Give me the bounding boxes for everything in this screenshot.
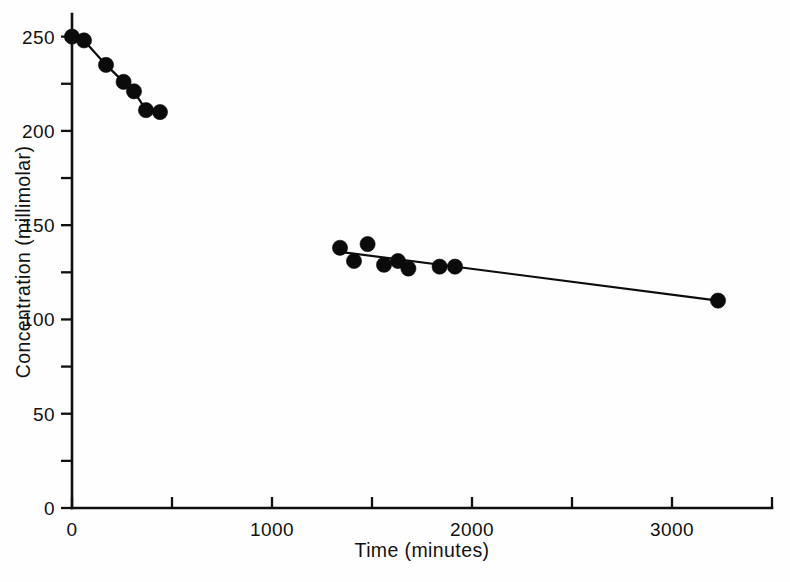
x-tick-label: 2000 bbox=[450, 519, 494, 540]
data-point-marker bbox=[346, 253, 361, 268]
y-axis-title: Concentration (millimolar) bbox=[12, 146, 34, 379]
y-tick-label: 0 bbox=[44, 498, 55, 519]
data-point-marker bbox=[152, 104, 167, 119]
data-point-marker bbox=[376, 257, 391, 272]
x-axis-title: Time (minutes) bbox=[355, 539, 490, 561]
data-point-marker bbox=[447, 259, 462, 274]
data-point-marker bbox=[76, 33, 91, 48]
data-point-marker bbox=[98, 57, 113, 72]
y-axis-ticks bbox=[61, 37, 72, 508]
axes bbox=[72, 14, 772, 508]
y-tick-label: 200 bbox=[22, 121, 55, 142]
data-point-marker bbox=[138, 103, 153, 118]
data-point-marker bbox=[360, 236, 375, 251]
y-tick-label: 50 bbox=[33, 404, 55, 425]
data-point-marker bbox=[710, 293, 725, 308]
x-axis-ticks bbox=[72, 497, 772, 508]
chart-figure: 050100150200250 0100020003000 Time (minu… bbox=[0, 0, 790, 582]
plot-canvas: 050100150200250 0100020003000 Time (minu… bbox=[0, 0, 790, 582]
x-tick-label: 0 bbox=[67, 519, 78, 540]
data-point-marker bbox=[401, 261, 416, 276]
data-point-marker bbox=[332, 240, 347, 255]
x-axis-tick-labels: 0100020003000 bbox=[67, 519, 694, 540]
x-tick-label: 1000 bbox=[250, 519, 294, 540]
y-tick-label: 250 bbox=[22, 27, 55, 48]
data-point-marker bbox=[126, 84, 141, 99]
x-tick-label: 3000 bbox=[650, 519, 694, 540]
series-data-markers bbox=[64, 29, 725, 308]
data-point-marker bbox=[432, 259, 447, 274]
